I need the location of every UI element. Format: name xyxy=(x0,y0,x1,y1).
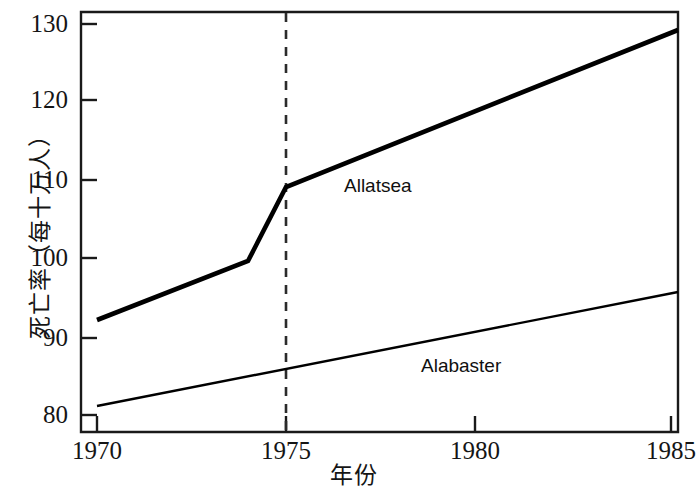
x-tick-label-1970: 1970 xyxy=(42,438,152,463)
series-label-allatsea: Allatsea xyxy=(344,176,412,195)
x-axis-title: 年份 xyxy=(294,456,414,486)
y-axis-title: 死亡率（每十万人） xyxy=(21,101,55,361)
y-tick-label-80: 80 xyxy=(8,402,68,427)
x-tick-label-1980: 1980 xyxy=(420,438,530,463)
plot-frame xyxy=(81,12,678,432)
x-tick-label-1985: 1985 xyxy=(616,438,700,463)
series-label-alabaster: Alabaster xyxy=(421,356,501,375)
y-tick-label-130: 130 xyxy=(8,11,68,36)
